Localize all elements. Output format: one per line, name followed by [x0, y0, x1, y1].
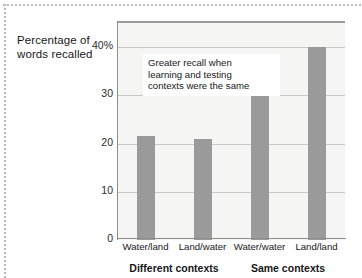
annotation-line-3: contexts were the same [148, 80, 276, 92]
group-label: Different contexts [129, 262, 218, 274]
dotted-border-left [4, 4, 6, 278]
y-tick-label-10: 10 [79, 184, 113, 196]
group-label: Same contexts [251, 262, 325, 274]
annotation-line-2: learning and testing [148, 69, 276, 81]
dotted-border-top [3, 4, 361, 6]
y-tick-label-40: 40% [79, 39, 113, 51]
y-tick-label-0: 0 [79, 232, 113, 244]
y-axis-line [117, 21, 118, 240]
y-axis-ticks: 010203040% [77, 21, 113, 238]
x-tick-label: Land/water [179, 241, 226, 252]
bar [308, 47, 326, 240]
bar [251, 91, 269, 240]
x-tick-label: Water/water [234, 241, 285, 252]
x-tick-label: Water/land [122, 241, 168, 252]
bar [194, 139, 212, 240]
figure-root: Percentage of words recalled 010203040% … [0, 0, 362, 278]
annotation-line-1: Greater recall when [148, 57, 276, 69]
y-tick-label-30: 30 [79, 87, 113, 99]
x-axis-line [117, 238, 346, 239]
chart-annotation: Greater recall when learning and testing… [143, 54, 280, 96]
y-tick-label-20: 20 [79, 136, 113, 148]
x-tick-label: Land/land [295, 241, 337, 252]
bar [137, 136, 155, 240]
